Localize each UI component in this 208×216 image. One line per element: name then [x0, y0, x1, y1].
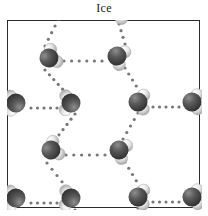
hydrogen-bond-dot: [125, 131, 128, 134]
hydrogen-bond-dot: [57, 83, 60, 86]
hydrogen-bond-dot: [60, 180, 63, 183]
hydrogen-bond-dot: [158, 105, 161, 108]
hydrogen-bond-dot: [123, 42, 126, 45]
hbond-diag-upper-right-b: [121, 111, 139, 140]
hydrogen-bond-dot: [177, 200, 180, 203]
oxygen-atom: [7, 188, 26, 208]
hydrogen-bond-dot: [131, 173, 134, 176]
hydrogen-bond-dot: [57, 133, 60, 136]
water-molecule-left-edge-lower: [7, 185, 26, 210]
water-molecule-left-lower-inner: [59, 185, 81, 210]
hydrogen-bond-dot: [55, 201, 58, 204]
hbond-top-horizontal: [62, 59, 103, 62]
hydrogen-bond-dot: [36, 106, 39, 109]
hydrogen-bond-dot: [73, 208, 76, 210]
water-molecule-offscreen-top-right: [105, 20, 134, 26]
hydrogen-bond-dot: [73, 112, 76, 115]
figure-title: Ice: [0, 1, 208, 16]
hydrogen-bond-dot: [177, 105, 180, 108]
hydrogen-bond-dot: [61, 128, 64, 131]
hbond-center-horizontal: [64, 153, 106, 156]
hydrogen-bond-dot: [164, 200, 167, 203]
water-molecule-center-right: [105, 134, 134, 166]
hydrogen-bond-dot: [78, 59, 81, 62]
hydrogen-bond-dot: [36, 201, 39, 204]
water-molecule-right-edge-upper: [182, 89, 202, 116]
hydrogen-bond-dot: [43, 68, 46, 71]
hydrogen-bond-dot: [158, 200, 161, 203]
hydrogen-bond-dot: [100, 59, 103, 62]
hydrogen-bond-dot: [85, 59, 88, 62]
water-molecule-right-edge-lower: [182, 184, 202, 210]
hydrogen-bond-dot: [127, 72, 130, 75]
hydrogen-bond-dot: [119, 29, 122, 32]
hydrogen-bond-dot: [127, 167, 130, 170]
hydrogen-bond-dot: [131, 78, 134, 81]
oxygen-atom: [7, 93, 26, 113]
hydrogen-bond-dot: [135, 179, 138, 182]
hydrogen-atom: [113, 20, 129, 26]
hydrogen-bond-dot: [88, 153, 91, 156]
hydrogen-bond-dot: [55, 174, 58, 177]
hydrogen-bond-dot: [53, 24, 56, 27]
water-molecule-offscreen-top-left: [37, 20, 67, 26]
hydrogen-bond-dot: [52, 78, 55, 81]
hydrogen-bond-dot: [129, 124, 132, 127]
hbond-diag-upper-right-a: [123, 66, 141, 93]
hbond-left-upper-horizontal: [29, 106, 58, 109]
hbond-right-upper-horizontal: [151, 105, 180, 108]
water-molecule-right-upper-inner: [128, 89, 150, 116]
hydrogen-bond-dot: [50, 168, 53, 171]
hydrogen-bond-dot: [70, 59, 73, 62]
hbond-left-lower-horizontal: [29, 201, 58, 204]
hydrogen-bond-dot: [164, 105, 167, 108]
ice-lattice-diagram: [7, 20, 202, 210]
hydrogen-bond-dot: [45, 161, 48, 164]
hydrogen-bond-dot: [49, 201, 52, 204]
hydrogen-bond-dot: [42, 106, 45, 109]
hydrogen-bond-dot: [47, 38, 50, 41]
hydrogen-bond-dot: [171, 105, 174, 108]
hydrogen-bond-dot: [171, 200, 174, 203]
lattice-svg-canvas: [7, 20, 202, 210]
water-molecule-top-left-inner: [34, 41, 65, 74]
hydrogen-bond-dot: [69, 118, 72, 121]
water-molecule-left-edge-upper: [7, 90, 26, 117]
hydrogen-bond-dot: [93, 59, 96, 62]
hydrogen-bond-dot: [151, 200, 154, 203]
hbond-diag-lower-right-b: [121, 206, 139, 210]
hydrogen-bond-dot: [50, 31, 53, 34]
hydrogen-bond-dot: [42, 201, 45, 204]
hbond-diag-top-right-edge: [117, 22, 126, 45]
hydrogen-bond-dot: [151, 105, 154, 108]
hydrogen-bond-dot: [133, 118, 136, 121]
hydrogen-bond-dot: [29, 106, 32, 109]
hydrogen-atom: [51, 20, 68, 22]
hydrogen-bond-dot: [49, 106, 52, 109]
hydrogen-bond-dot: [121, 36, 124, 39]
water-molecule-left-upper-inner: [59, 90, 81, 117]
hydrogen-bond-dot: [72, 153, 75, 156]
hydrogen-bond-dot: [80, 153, 83, 156]
hbond-diag-lower-right-a: [123, 160, 141, 188]
ice-structure-figure: Ice: [0, 0, 208, 216]
hydrogen-bond-dot: [135, 84, 138, 87]
hbond-right-lower-horizontal: [151, 200, 180, 203]
water-molecule-center-left: [37, 133, 67, 166]
hydrogen-bond-dot: [55, 106, 58, 109]
hydrogen-bond-dot: [29, 201, 32, 204]
hydrogen-bond-dot: [96, 153, 99, 156]
water-molecule-right-lower-inner: [128, 184, 150, 210]
hydrogen-bond-dot: [65, 123, 68, 126]
oxygen-atom: [38, 20, 63, 23]
water-molecule-top-right-inner: [103, 40, 133, 72]
hydrogen-bond-dot: [103, 153, 106, 156]
hydrogen-bond-dot: [48, 73, 51, 76]
water-molecule-layer: [7, 20, 202, 210]
